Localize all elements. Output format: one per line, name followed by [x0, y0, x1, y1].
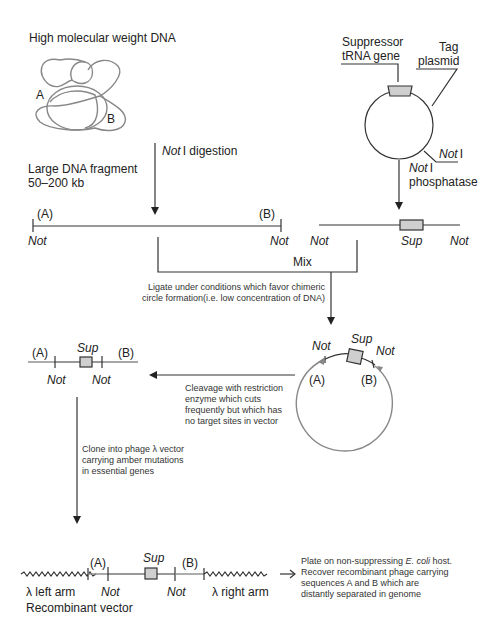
cleavage-arrowhead — [149, 371, 157, 379]
locus-b-label: B — [107, 112, 115, 126]
cleavage-text-line4: no target sites in vector — [185, 416, 278, 426]
cloning-text-line2: carrying amber mutations — [82, 455, 184, 465]
recombinant-not-left-label: Not — [101, 585, 120, 599]
mix-label: Mix — [293, 255, 312, 269]
insert-end-b-label: (B) — [118, 346, 134, 360]
recombinant-end-b-label: (B) — [182, 556, 198, 570]
circle-sup-box — [347, 349, 363, 365]
tag-plasmid-circle — [365, 91, 433, 159]
suppressor-label-line2: tRNA gene — [342, 49, 400, 63]
insert-sup-box — [80, 357, 92, 367]
circle-not-right-label: Not — [376, 344, 395, 358]
tag-plasmid-label-line1: Tag — [439, 40, 458, 54]
fragment-end-a-label: (A) — [37, 207, 53, 221]
linear-plasmid-not-left-label: Not — [310, 234, 329, 248]
insert-end-a-label: (A) — [32, 346, 48, 360]
circle-sup-label: Sup — [351, 332, 373, 346]
cleavage-text-line3: frequently but which has — [185, 405, 283, 415]
recombinant-end-a-label: (A) — [90, 556, 106, 570]
ligation-text-line2: circle formation(i.e. low concentration … — [142, 293, 325, 303]
fragment-label-line1: Large DNA fragment — [28, 162, 138, 176]
plasmid-not-site-label: NotI — [439, 147, 463, 161]
insert-sup-label: Sup — [77, 341, 99, 355]
cleavage-text-line2: enzyme which cuts — [185, 394, 262, 404]
suppressor-leader-line — [341, 64, 398, 82]
locus-a-label: A — [36, 88, 44, 102]
plating-text-line4: distantly separated in genome — [301, 589, 421, 599]
linear-plasmid-sup-label: Sup — [401, 234, 423, 248]
insert-not-left-label: Not — [47, 373, 66, 387]
lambda-right-arm-label: λ right arm — [212, 585, 269, 599]
suppressor-trna-gene-block — [388, 86, 412, 96]
ligation-text-line1: Ligate under conditions which favor chim… — [148, 282, 326, 292]
linear-plasmid-not-right-label: Not — [450, 234, 469, 248]
fragment-not-site-left-label: Not — [28, 234, 47, 248]
circle-end-b-label: (B) — [361, 373, 377, 387]
cloning-text-line3: in essential genes — [82, 466, 155, 476]
fragment-label-line2: 50–200 kb — [28, 176, 84, 190]
recombinant-vector-caption: Recombinant vector — [26, 601, 133, 615]
phosphatase-step-line1: NotI — [409, 161, 433, 175]
phosphatase-step-line2: phosphatase — [409, 175, 478, 189]
chimeric-circle — [296, 354, 392, 451]
digestion-arrowhead — [151, 207, 159, 215]
insert-not-right-label: Not — [92, 373, 111, 387]
cleavage-text-line1: Cleavage with restriction — [185, 383, 283, 393]
circle-not-left-label: Not — [312, 339, 331, 353]
tag-plasmid-label-line2: plasmid — [418, 54, 459, 68]
genomic-dna-title: High molecular weight DNA — [29, 31, 176, 45]
plating-text-line1: Plate on non-suppressing E. coli host. — [301, 556, 452, 566]
plating-text-line2: Recover recombinant phage carrying — [301, 567, 449, 577]
plating-text-line3: sequences A and B which are — [301, 578, 419, 588]
recombinant-sup-box — [145, 568, 157, 579]
circle-end-a-label: (A) — [309, 373, 325, 387]
lambda-left-arm-label: λ left arm — [26, 585, 75, 599]
recombinant-sup-label: Sup — [143, 551, 165, 565]
linear-sup-box — [400, 220, 423, 230]
fragment-end-b-label: (B) — [259, 207, 275, 221]
ligation-arrowhead — [327, 317, 335, 325]
recombinant-not-right-label: Not — [167, 585, 186, 599]
suppressor-label-line1: Suppressor — [342, 35, 403, 49]
phosphatase-arrowhead — [395, 202, 403, 210]
fragment-not-site-right-label: Not — [270, 234, 289, 248]
lambda-right-arm — [204, 572, 267, 576]
digestion-step-label: NotI digestion — [162, 144, 237, 158]
lambda-left-arm — [21, 572, 96, 576]
not-i-linking-library-diagram: High molecular weight DNA A B Suppressor… — [0, 0, 502, 639]
cloning-text-line1: Clone into phage λ vector — [82, 444, 184, 454]
cloning-arrowhead — [73, 516, 81, 524]
